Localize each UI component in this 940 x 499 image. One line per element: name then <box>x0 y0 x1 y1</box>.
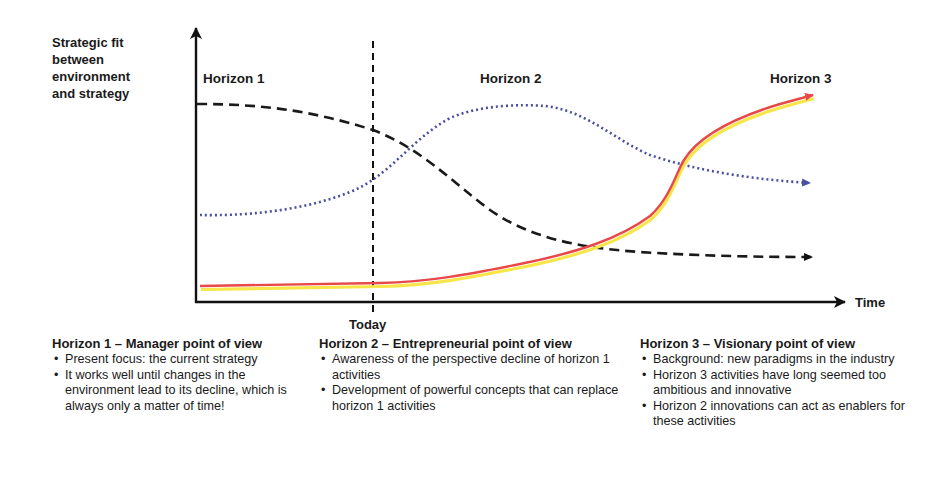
bullet-item: Horizon 2 innovations can act as enabler… <box>640 399 910 430</box>
y-axis-label-line: and strategy <box>52 85 152 102</box>
y-axis-label-line: environment <box>52 68 152 85</box>
bullet-item: Present focus: the current strategy <box>52 352 297 368</box>
bullet-item: It works well until changes in the envir… <box>52 368 297 415</box>
x-axis-label: Time <box>855 295 885 310</box>
horizon3-curve <box>200 95 813 286</box>
y-axis-label-line: between <box>52 51 152 68</box>
horizon2-curve <box>200 105 810 215</box>
y-axis-label: Strategic fit between environment and st… <box>52 34 152 102</box>
horizon2-bullets: Awareness of the perspective decline of … <box>319 352 619 414</box>
horizon1-curve <box>197 104 812 257</box>
horizon1-label: Horizon 1 <box>203 71 265 86</box>
horizon2-description: Horizon 2 – Entrepreneurial point of vie… <box>319 336 619 414</box>
horizon3-description-title: Horizon 3 – Visionary point of view <box>640 336 910 352</box>
horizon3-description: Horizon 3 – Visionary point of view Back… <box>640 336 910 430</box>
bullet-item: Horizon 3 activities have long seemed to… <box>640 368 910 399</box>
horizon1-description: Horizon 1 – Manager point of view Presen… <box>52 336 297 414</box>
bullet-item: Awareness of the perspective decline of … <box>319 352 619 383</box>
horizon1-description-title: Horizon 1 – Manager point of view <box>52 336 297 352</box>
horizon2-description-title: Horizon 2 – Entrepreneurial point of vie… <box>319 336 619 352</box>
horizon3-bullets: Background: new paradigms in the industr… <box>640 352 910 430</box>
y-axis-label-line: Strategic fit <box>52 34 152 51</box>
horizon2-label: Horizon 2 <box>480 71 542 86</box>
today-label: Today <box>349 317 386 332</box>
bullet-item: Background: new paradigms in the industr… <box>640 352 910 368</box>
horizon1-bullets: Present focus: the current strategy It w… <box>52 352 297 414</box>
horizon3-label: Horizon 3 <box>770 71 832 86</box>
bullet-item: Development of powerful concepts that ca… <box>319 383 619 414</box>
